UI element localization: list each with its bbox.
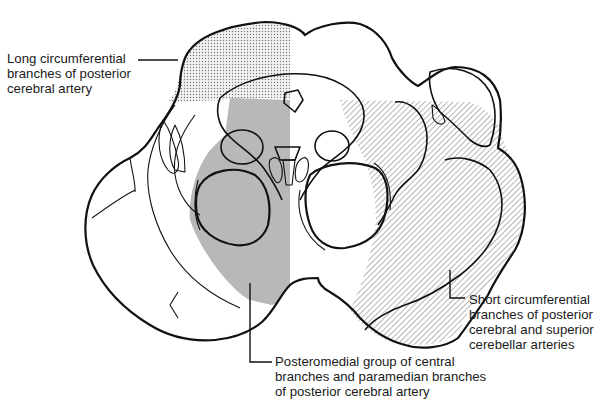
label-line: cerebral and superior <box>469 322 594 337</box>
crus-left-band-top <box>159 120 178 173</box>
label-line: branches of posterior <box>7 66 131 81</box>
posteromedial-territory <box>190 98 290 305</box>
label-line: of posterior cerebral artery <box>275 384 486 399</box>
label-line: Posteromedial group of central <box>275 354 486 369</box>
label-line: cerebellar arteries <box>469 337 594 352</box>
label-posteromedial: Posteromedial group of central branches … <box>275 354 486 399</box>
midline-structure-right <box>295 158 308 182</box>
label-line: Short circumferential <box>469 292 594 307</box>
label-line: cerebral artery <box>7 81 131 96</box>
crus-left-divider-3 <box>130 158 135 192</box>
crus-left-divider-2 <box>170 292 178 318</box>
label-short-circumferential: Short circumferential branches of poster… <box>469 292 594 352</box>
label-line: branches and paramedian branches <box>275 369 486 384</box>
label-line: Long circumferential <box>7 51 131 66</box>
label-line: branches of posterior <box>469 307 594 322</box>
crus-left-divider-1 <box>92 190 135 218</box>
oculomotor-nucleus-right <box>315 131 349 161</box>
label-long-circumferential: Long circumferential branches of posteri… <box>7 51 131 96</box>
